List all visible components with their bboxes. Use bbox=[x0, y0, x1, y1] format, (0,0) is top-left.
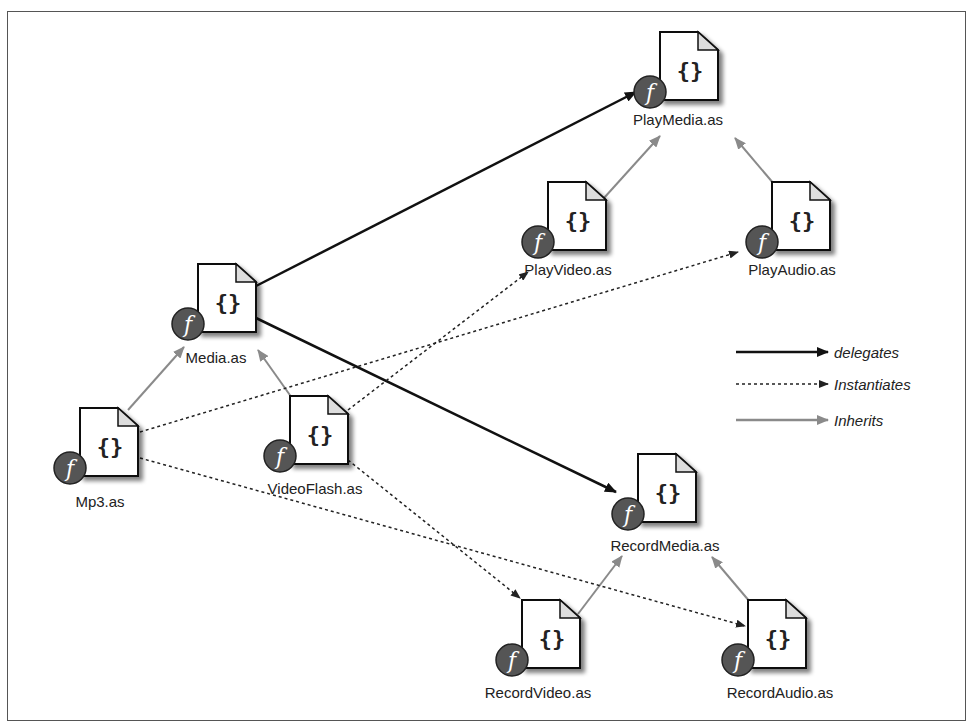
node-videoflash[interactable]: VideoFlash.as bbox=[264, 396, 362, 497]
node-label: RecordMedia.as bbox=[610, 537, 719, 554]
node-recordmedia[interactable]: RecordMedia.as bbox=[610, 454, 719, 554]
edge-videoflash-recordvideo bbox=[348, 460, 520, 598]
node-label: VideoFlash.as bbox=[268, 480, 363, 497]
class-diagram: {} f PlayMedia.as PlayVideo.as PlayAudio… bbox=[0, 0, 974, 728]
node-label: RecordVideo.as bbox=[485, 684, 591, 701]
edge-recordvideo-recordmedia bbox=[578, 556, 622, 614]
legend-label: Inherits bbox=[834, 412, 884, 429]
edge-videoflash-media bbox=[258, 350, 292, 398]
node-mp3[interactable]: Mp3.as bbox=[54, 408, 138, 510]
actionscript-file-icon bbox=[746, 182, 830, 258]
actionscript-file-icon bbox=[722, 600, 806, 676]
actionscript-file-icon bbox=[172, 264, 256, 340]
edge-playaudio-playmedia bbox=[735, 138, 774, 184]
node-playvideo[interactable]: PlayVideo.as bbox=[522, 182, 612, 278]
node-label: Mp3.as bbox=[75, 493, 124, 510]
actionscript-file-icon bbox=[264, 396, 348, 472]
node-recordvideo[interactable]: RecordVideo.as bbox=[485, 600, 591, 701]
legend-item-delegates: delegates bbox=[736, 344, 900, 361]
legend-item-instantiates: Instantiates bbox=[736, 376, 911, 393]
actionscript-file-icon bbox=[634, 32, 718, 108]
edge-mp3-media bbox=[128, 347, 184, 410]
node-label: PlayVideo.as bbox=[524, 261, 611, 278]
node-label: Media.as bbox=[186, 349, 247, 366]
actionscript-file-icon bbox=[522, 182, 606, 258]
legend-label: delegates bbox=[834, 344, 900, 361]
legend-label: Instantiates bbox=[834, 376, 911, 393]
node-label: PlayAudio.as bbox=[748, 261, 836, 278]
node-label: PlayMedia.as bbox=[633, 111, 723, 128]
legend-item-inherits: Inherits bbox=[736, 412, 884, 429]
edge-recordaudio-recordmedia bbox=[712, 557, 750, 602]
actionscript-file-icon bbox=[496, 600, 580, 676]
node-media[interactable]: Media.as bbox=[172, 264, 256, 366]
edge-playvideo-playmedia bbox=[604, 136, 660, 198]
node-recordaudio[interactable]: RecordAudio.as bbox=[722, 600, 833, 701]
actionscript-file-icon bbox=[612, 454, 696, 530]
actionscript-file-icon bbox=[54, 408, 138, 484]
legend: delegates Instantiates Inherits bbox=[736, 344, 911, 429]
node-playmedia[interactable]: PlayMedia.as bbox=[633, 32, 723, 128]
node-label: RecordAudio.as bbox=[727, 684, 834, 701]
edge-videoflash-playvideo bbox=[348, 272, 528, 410]
node-playaudio[interactable]: PlayAudio.as bbox=[746, 182, 836, 278]
